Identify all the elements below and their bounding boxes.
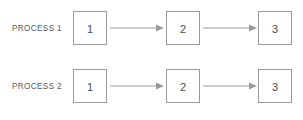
process-1-node-1-label: 1	[74, 12, 106, 46]
process-2-node-1-label: 1	[74, 70, 106, 104]
process-1-arrow-1-to-2	[110, 22, 164, 34]
process-2-node-2[interactable]: 2	[166, 69, 200, 103]
process-1-node-3-label: 3	[259, 12, 291, 46]
process-row-2-label: PROCESS 2	[12, 69, 62, 105]
process-row-1-label: PROCESS 1	[12, 11, 62, 47]
process-2-node-3-label: 3	[259, 70, 291, 104]
process-2-node-1[interactable]: 1	[73, 69, 107, 103]
process-1-node-2[interactable]: 2	[166, 11, 200, 45]
process-1-node-1[interactable]: 1	[73, 11, 107, 45]
process-2-node-2-label: 2	[167, 70, 199, 104]
process-flow-diagram: PROCESS 1 1 2 3 PROCESS 2 1	[0, 0, 303, 120]
process-2-node-3[interactable]: 3	[258, 69, 292, 103]
process-1-arrow-2-to-3	[203, 22, 257, 34]
process-1-node-2-label: 2	[167, 12, 199, 46]
process-1-node-3[interactable]: 3	[258, 11, 292, 45]
process-2-arrow-1-to-2	[110, 80, 164, 92]
process-row-2: PROCESS 2 1 2 3	[0, 69, 303, 105]
process-row-1: PROCESS 1 1 2 3	[0, 11, 303, 47]
process-2-arrow-2-to-3	[203, 80, 257, 92]
